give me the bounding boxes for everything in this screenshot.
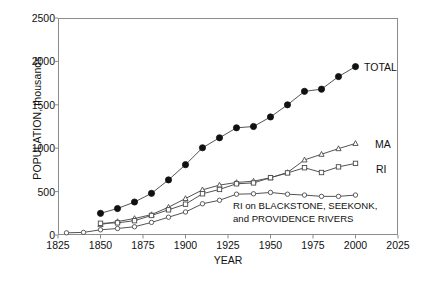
data-point (166, 208, 170, 212)
series-total (97, 64, 358, 217)
data-point (217, 198, 221, 202)
data-point (233, 125, 239, 131)
data-point (352, 64, 358, 70)
data-point (250, 123, 256, 129)
data-point (319, 194, 323, 198)
data-point (217, 187, 221, 191)
data-point (97, 210, 103, 216)
data-point (132, 218, 136, 222)
annotation-blackstone-seekonk-providence: RI on BLACKSTONE, SEEKONK, and PROVIDENC… (233, 200, 377, 225)
data-point (81, 230, 85, 234)
data-point (284, 102, 290, 108)
figure-population-chart: 2500 2000 1500 1000 500 0 1825 1850 1875… (0, 0, 421, 287)
data-point (148, 190, 154, 196)
data-point (268, 176, 272, 180)
data-point (115, 226, 119, 230)
series-label-total: TOTAL (364, 62, 397, 73)
data-point (353, 193, 357, 197)
data-point (199, 145, 205, 151)
data-point (216, 135, 222, 141)
data-point (183, 196, 188, 201)
data-point (200, 202, 204, 206)
data-point (267, 114, 273, 120)
data-point (302, 166, 306, 170)
data-point (200, 192, 204, 196)
data-point (165, 177, 171, 183)
data-point (285, 171, 289, 175)
data-point (182, 162, 188, 168)
data-point (64, 231, 68, 235)
series-label-ri: RI (376, 164, 387, 175)
data-point (302, 193, 306, 197)
data-point (115, 221, 119, 225)
data-point (318, 86, 324, 92)
data-point (183, 202, 187, 206)
data-point (336, 165, 340, 169)
data-point (98, 221, 102, 225)
data-point (98, 228, 102, 232)
data-point (114, 205, 120, 211)
data-point (251, 192, 255, 196)
data-point (353, 161, 357, 165)
data-point (131, 199, 137, 205)
data-point (301, 88, 307, 94)
data-point (268, 190, 272, 194)
data-point (319, 170, 323, 174)
data-point (335, 73, 341, 79)
data-point (183, 210, 187, 214)
data-point (234, 192, 238, 196)
data-point (285, 192, 289, 196)
series-label-ma: MA (375, 139, 391, 150)
annotation-line-2: and PROVIDENCE RIVERS (233, 213, 377, 226)
chart-data-layer (0, 0, 421, 287)
data-point (234, 182, 238, 186)
data-point (132, 225, 136, 229)
data-point (353, 141, 358, 146)
annotation-line-1: RI on BLACKSTONE, SEEKONK, (233, 200, 377, 213)
data-point (251, 181, 255, 185)
data-point (166, 215, 170, 219)
data-point (149, 213, 153, 217)
data-point (149, 220, 153, 224)
data-point (336, 194, 340, 198)
